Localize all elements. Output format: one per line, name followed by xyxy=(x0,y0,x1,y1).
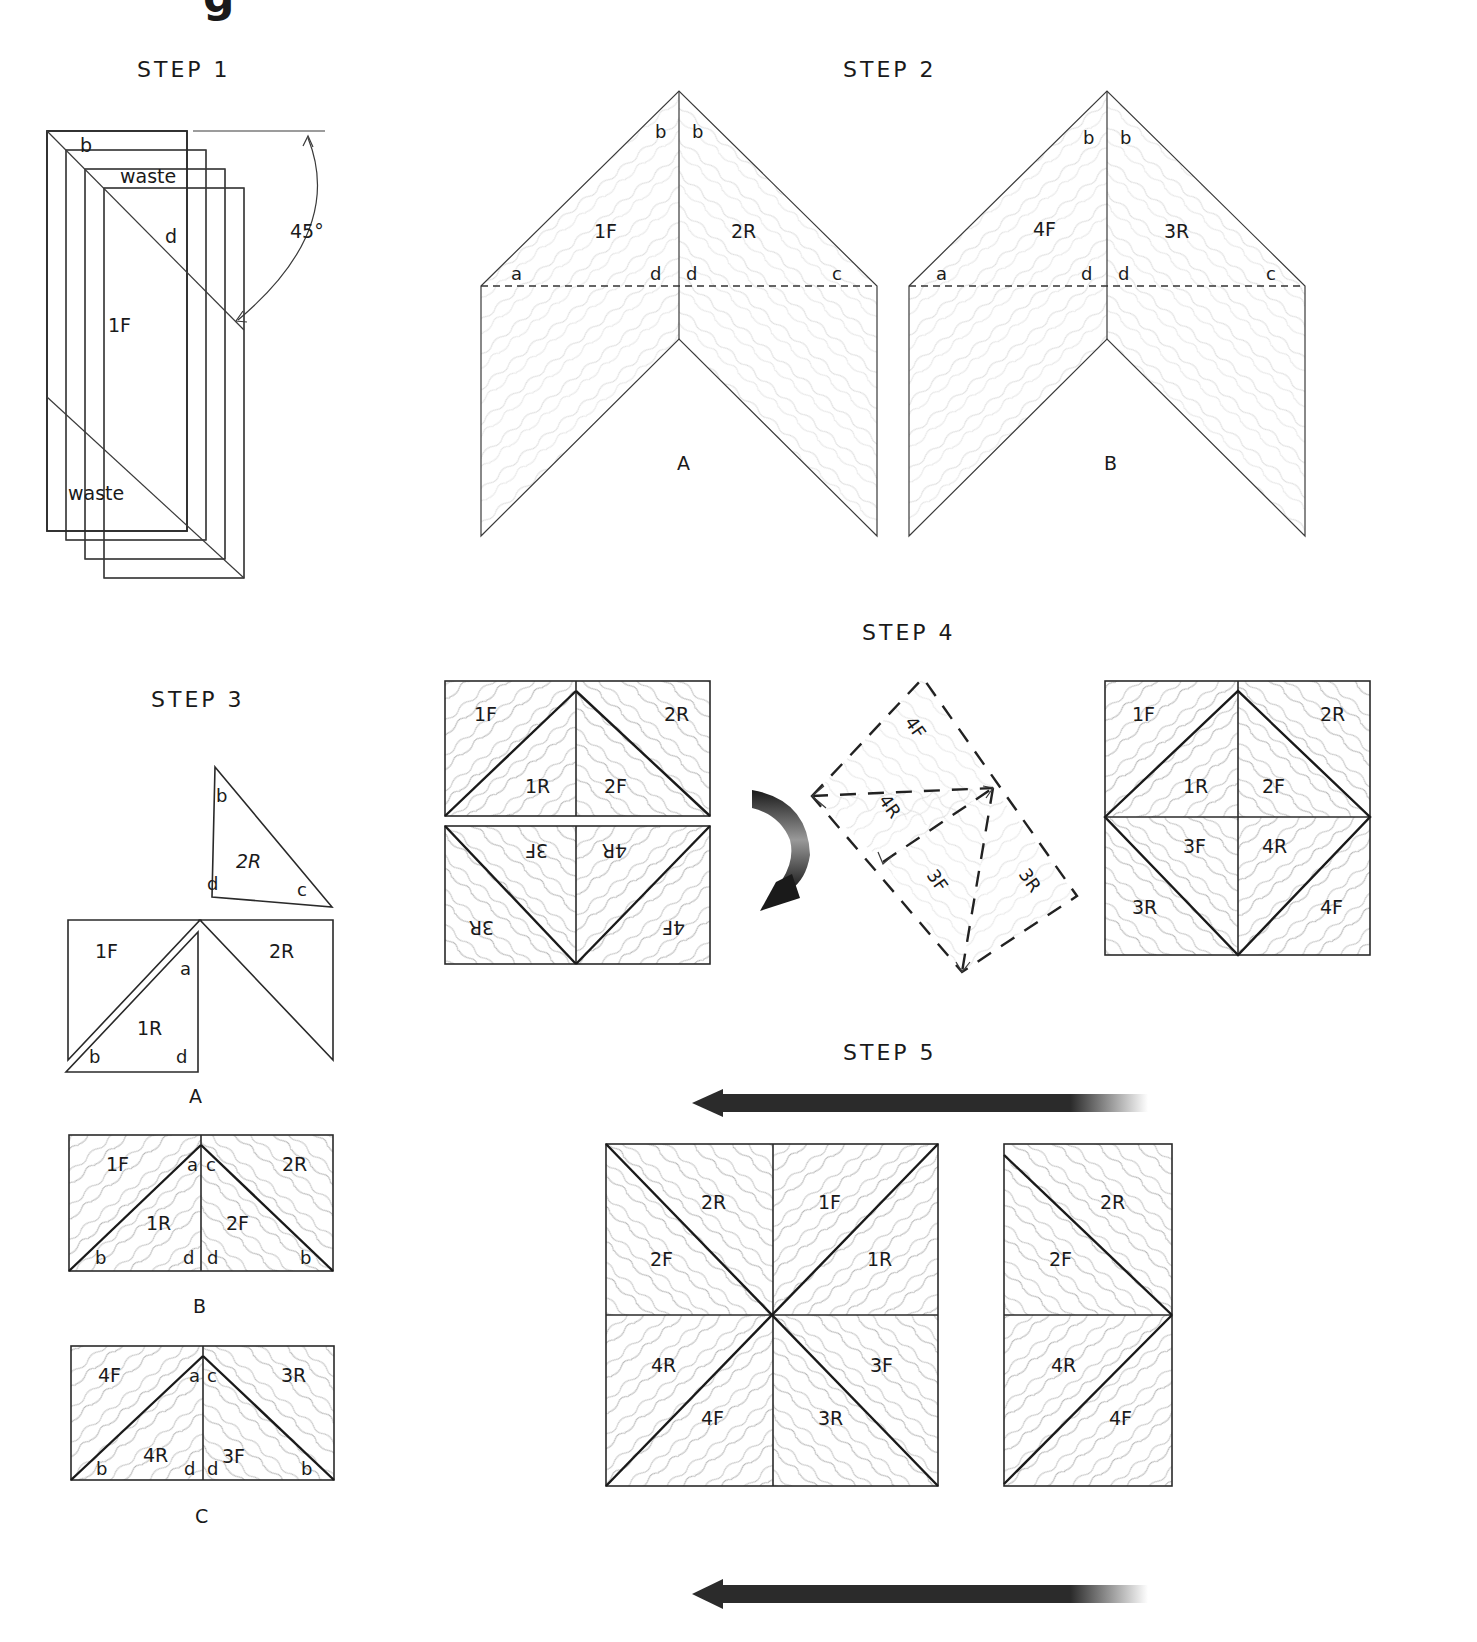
label-4R: 4R xyxy=(1262,835,1287,857)
label-1R: 1R xyxy=(1183,775,1208,797)
piece-1F xyxy=(481,91,679,536)
label-b: b xyxy=(1120,127,1131,148)
label-a: a xyxy=(189,1365,200,1386)
step-5-title: STEP 5 xyxy=(843,1040,937,1065)
label-d: d xyxy=(650,263,661,284)
label-c: c xyxy=(207,1365,217,1386)
angle-label: 45° xyxy=(290,220,324,242)
label-4R-inverted: 4R xyxy=(602,840,627,862)
label-2F: 2F xyxy=(226,1212,249,1234)
label-3R: 3R xyxy=(818,1407,843,1429)
label-b: b xyxy=(80,134,92,156)
label-b: b xyxy=(216,785,227,806)
piece-2R xyxy=(200,920,333,1060)
step-5-big-square: 2R 1F 2F 1R 4R 3F 4F 3R xyxy=(606,1144,938,1486)
label-b: b xyxy=(89,1046,100,1067)
label-waste-bottom: waste xyxy=(68,482,124,504)
label-b: b xyxy=(301,1458,312,1479)
caption-C: C xyxy=(195,1505,208,1527)
label-d: d xyxy=(165,225,177,247)
step-1-title: STEP 1 xyxy=(137,57,231,82)
mitered-panel-assembly-diagram: g STEP 1 45° b waste d 1F waste STEP 2 xyxy=(0,0,1477,1642)
label-b: b xyxy=(655,121,666,142)
loose-piece-2R xyxy=(212,767,332,907)
step-4-top-block: 1F 2R 1R 2F xyxy=(445,681,710,816)
step-3-A: b 2R d c 1F a 2R 1R b d A xyxy=(66,767,333,1107)
label-3F-inverted: 3F xyxy=(525,840,548,862)
step-4-bottom-block-flipped: 3F 4R 3R 4F xyxy=(445,826,710,964)
label-d: d xyxy=(207,1458,218,1479)
label-2R: 2R xyxy=(1320,703,1345,725)
label-c: c xyxy=(832,263,842,284)
label-d: d xyxy=(686,263,697,284)
label-2F: 2F xyxy=(650,1248,673,1270)
label-4F: 4F xyxy=(1033,218,1056,240)
label-4R: 4R xyxy=(651,1354,676,1376)
piece-2R xyxy=(679,91,877,536)
label-c: c xyxy=(1266,263,1276,284)
label-4F: 4F xyxy=(701,1407,724,1429)
label-d: d xyxy=(183,1247,194,1268)
label-waste-top: waste xyxy=(120,165,176,187)
step-5-half-panel: 2R 2F 4R 4F xyxy=(1004,1144,1172,1486)
label-c: c xyxy=(297,879,307,900)
step-4-rotated-block: 4F 4R 3F 3R xyxy=(812,678,1077,972)
label-4R: 4R xyxy=(1051,1354,1076,1376)
label-2R: 2R xyxy=(282,1153,307,1175)
piece-3R xyxy=(1107,91,1305,536)
label-4F-inverted: 4F xyxy=(662,917,685,939)
label-b: b xyxy=(1083,127,1094,148)
label-3F: 3F xyxy=(870,1354,893,1376)
label-1R: 1R xyxy=(146,1212,171,1234)
label-1R: 1R xyxy=(137,1017,162,1039)
caption-A: A xyxy=(189,1085,202,1107)
label-4F: 4F xyxy=(98,1364,121,1386)
label-1F: 1F xyxy=(106,1153,129,1175)
label-3R: 3R xyxy=(1164,220,1189,242)
label-1F: 1F xyxy=(594,220,617,242)
label-b: b xyxy=(96,1458,107,1479)
cropped-heading-glyph: g xyxy=(203,0,235,22)
label-1R: 1R xyxy=(525,775,550,797)
step-2-title: STEP 2 xyxy=(843,57,937,82)
label-2F: 2F xyxy=(1049,1248,1072,1270)
label-d: d xyxy=(184,1458,195,1479)
left-arrow-top-icon xyxy=(692,1089,1148,1117)
step-3: STEP 3 b 2R d c 1F a 2R 1R b d A xyxy=(66,687,334,1527)
label-2R: 2R xyxy=(236,850,261,872)
label-2R: 2R xyxy=(269,940,294,962)
label-a: a xyxy=(187,1154,198,1175)
step-5: STEP 5 2R 1F 2F 1R 4R 3F 4 xyxy=(606,1040,1172,1609)
label-a: a xyxy=(180,958,191,979)
label-b: b xyxy=(300,1247,311,1268)
piece-1F xyxy=(68,920,200,1060)
label-1F: 1F xyxy=(1132,703,1155,725)
step-4: STEP 4 1F 2R 1R 2F 3F 4R xyxy=(445,620,1370,972)
label-1F: 1F xyxy=(818,1191,841,1213)
chevron-A: b b 1F 2R a d d c A xyxy=(481,91,877,536)
label-1F: 1F xyxy=(95,940,118,962)
piece-4F xyxy=(909,91,1107,536)
rotate-arrow-icon xyxy=(752,790,810,911)
label-4F: 4F xyxy=(1320,896,1343,918)
label-d: d xyxy=(176,1046,187,1067)
cut-line-top xyxy=(47,131,244,330)
label-2R: 2R xyxy=(664,703,689,725)
label-d: d xyxy=(1081,263,1092,284)
label-3R: 3R xyxy=(1132,896,1157,918)
label-d: d xyxy=(207,1247,218,1268)
step-3-B: 1F a c 2R 1R 2F b d d b B xyxy=(69,1135,333,1317)
step-1: STEP 1 45° b waste d 1F waste xyxy=(47,57,325,578)
step-3-title: STEP 3 xyxy=(151,687,245,712)
label-2F: 2F xyxy=(1262,775,1285,797)
step-4-title: STEP 4 xyxy=(862,620,956,645)
label-b: b xyxy=(692,121,703,142)
label-4F: 4F xyxy=(1109,1407,1132,1429)
label-1F: 1F xyxy=(474,703,497,725)
label-b: b xyxy=(95,1247,106,1268)
label-2R: 2R xyxy=(701,1191,726,1213)
angle-arrowhead-top xyxy=(303,136,313,147)
label-d: d xyxy=(207,873,218,894)
caption-A: A xyxy=(677,452,690,474)
label-d: d xyxy=(1118,263,1129,284)
